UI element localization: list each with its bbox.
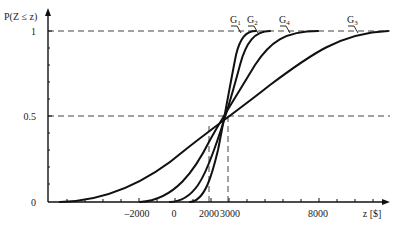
leader-g3 [348, 26, 358, 33]
x-axis-arrow-icon [382, 199, 390, 205]
y-axis-label: P(Z ≤ z) [4, 11, 37, 23]
x-tick-0: 0 [172, 208, 177, 219]
y-tick-05: 0.5 [24, 111, 37, 122]
label-g1: G1 [230, 14, 241, 27]
x-tick-3000: 3000 [220, 208, 240, 219]
leader-g1 [231, 26, 241, 33]
label-g2: G2 [247, 14, 258, 27]
x-tick-2000: 2000 [199, 208, 219, 219]
x-tick-8000: 8000 [308, 208, 328, 219]
leader-g4 [280, 26, 290, 33]
cdf-chart: G1 G2 G4 G3 P(Z ≤ z) 1 0.5 0 –2000 0 200… [0, 0, 405, 230]
label-g4: G4 [279, 14, 290, 27]
label-g3: G3 [347, 14, 358, 27]
y-axis-arrow-icon [45, 8, 51, 16]
y-tick-1: 1 [31, 26, 36, 37]
y-tick-0: 0 [31, 197, 36, 208]
x-tick-m2000: –2000 [124, 208, 150, 219]
x-axis-label: z [$] [363, 208, 382, 219]
